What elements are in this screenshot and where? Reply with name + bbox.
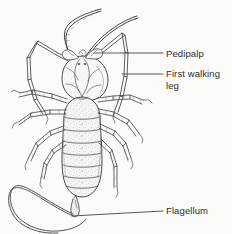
- label-flagellum: Flagellum: [166, 205, 208, 217]
- label-first-walking-leg: First walking leg: [166, 68, 220, 91]
- pedipalp-right: [86, 49, 103, 59]
- cephalothorax: [62, 56, 108, 101]
- figure-panel: Pedipalp First walking leg Flagellum: [0, 0, 232, 234]
- pedipalp-left: [62, 50, 78, 60]
- leader-line-flagellum: [72, 211, 163, 216]
- walking-leg-left-2: [11, 90, 67, 103]
- walking-leg-right-2: [98, 95, 152, 104]
- drawing-group: [9, 9, 163, 234]
- whip-scorpion-illustration: [0, 0, 232, 234]
- walking-leg-left-hatching: [24, 92, 60, 178]
- label-pedipalp: Pedipalp: [166, 48, 204, 60]
- abdomen: [62, 97, 102, 197]
- walking-leg-left-3: [12, 110, 66, 128]
- walking-leg-right-hatching: [105, 95, 141, 189]
